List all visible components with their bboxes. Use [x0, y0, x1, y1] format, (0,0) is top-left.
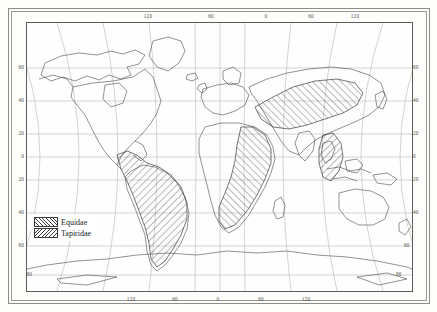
lon-top-3: 60: [308, 13, 314, 19]
lon-top-1: 60: [208, 13, 214, 19]
lat-right-4: 20: [413, 176, 419, 182]
tapiridae-label: Tapiridae: [61, 229, 91, 238]
map-legend: Equidae Tapiridae: [31, 214, 94, 241]
lat-right-1: 40: [413, 97, 419, 103]
lat-left-4: 20: [18, 176, 24, 182]
equidae-swatch: [34, 217, 58, 227]
lat-right-0: 60: [413, 64, 419, 70]
lon-bot-0: 120: [127, 296, 135, 302]
legend-item-equidae: Equidae: [34, 217, 91, 227]
world-map-svg: [27, 23, 412, 291]
lat-right-5: 40: [413, 209, 419, 215]
lat-left-3: 0: [21, 153, 24, 159]
lat-right-2: 20: [413, 130, 419, 136]
lat-left-7: 80: [26, 271, 32, 277]
lon-top-0: 120: [144, 13, 152, 19]
lat-right-7: 80: [396, 271, 402, 277]
lat-left-2: 20: [18, 130, 24, 136]
coastlines: [27, 37, 412, 285]
lon-bot-1: 60: [172, 296, 178, 302]
lon-bot-2: 0: [217, 296, 220, 302]
lon-bot-3: 60: [258, 296, 264, 302]
figure-page: 120 60 0 60 120 120 60 0 60 120 60 40 20…: [0, 0, 437, 312]
lon-top-4: 120: [351, 13, 359, 19]
lon-bot-4: 120: [302, 296, 310, 302]
lat-left-5: 40: [18, 209, 24, 215]
lat-left-0: 60: [18, 64, 24, 70]
legend-item-tapiridae: Tapiridae: [34, 228, 91, 238]
map-plot-area: [26, 22, 413, 292]
lat-left-1: 40: [18, 97, 24, 103]
equidae-label: Equidae: [61, 218, 87, 227]
lat-right-3: 0: [413, 153, 416, 159]
lat-left-6: 60: [18, 242, 24, 248]
lon-top-2: 0: [265, 13, 268, 19]
tapiridae-swatch: [34, 228, 58, 238]
lat-right-6: 60: [404, 242, 410, 248]
